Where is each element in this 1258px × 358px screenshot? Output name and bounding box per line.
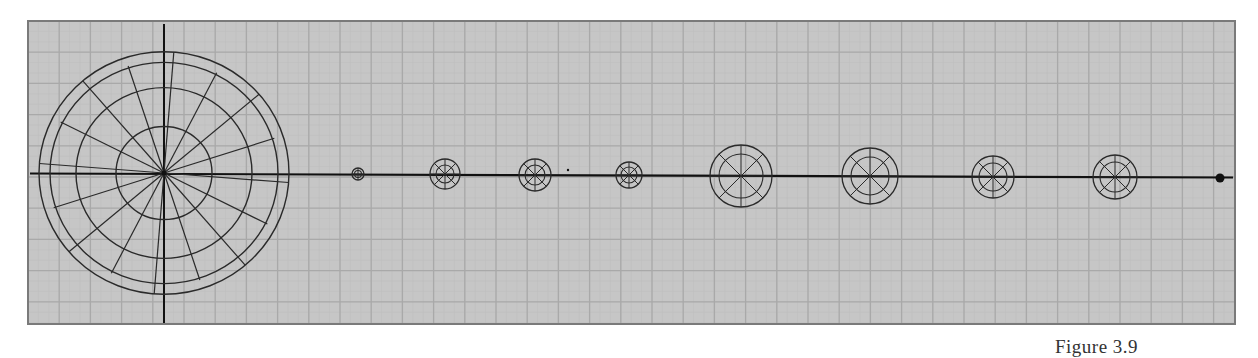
sun-center xyxy=(162,171,167,176)
planet-1 xyxy=(352,168,364,180)
planet-4 xyxy=(616,162,642,188)
figure-caption: Figure 3.9 xyxy=(1055,336,1138,358)
small-mark xyxy=(567,169,569,171)
planet-3 xyxy=(519,159,551,191)
planet-7 xyxy=(972,156,1014,198)
end-dot xyxy=(1216,174,1225,183)
planet-2 xyxy=(430,159,460,189)
planet-8 xyxy=(1093,155,1137,199)
planet-6 xyxy=(842,148,898,204)
planet-5 xyxy=(710,145,772,207)
